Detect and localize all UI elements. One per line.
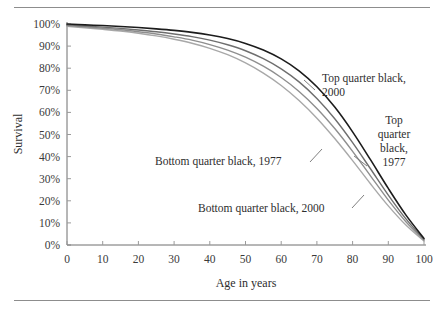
y-axis-title: Survival (11, 113, 25, 154)
x-tick-label: 10 (97, 253, 109, 265)
x-axis-group: 0102030405060708090100 Age in years (64, 241, 433, 290)
y-axis-tick-labels: 0%10%20%30%40%50%60%70%80%90%100% (33, 18, 60, 251)
annotation-line: 2000 (322, 86, 345, 98)
annotation-line: Top quarter black, (322, 72, 406, 85)
y-tick-label: 50% (39, 129, 61, 141)
annotation-label: Bottom quarter black, 2000 (198, 202, 325, 215)
annotation-line: 1977 (383, 156, 406, 168)
y-tick-label: 40% (39, 151, 61, 163)
annotation-label: Topquarterblack,1977 (378, 114, 411, 168)
survival-chart: 0%10%20%30%40%50%60%70%80%90%100% Surviv… (0, 0, 442, 317)
annotation-line: quarter (378, 128, 411, 141)
y-axis-ticks (67, 24, 71, 245)
y-tick-label: 70% (39, 84, 61, 96)
x-tick-label: 90 (383, 253, 395, 265)
x-tick-label: 60 (275, 253, 287, 265)
y-tick-label: 80% (39, 62, 61, 74)
x-axis-ticks (67, 241, 424, 245)
x-tick-label: 50 (240, 253, 252, 265)
annotation-line: Bottom quarter black, 2000 (198, 202, 325, 215)
x-tick-label: 40 (204, 253, 216, 265)
annotation-leader-line (352, 195, 364, 208)
x-tick-label: 30 (168, 253, 180, 265)
y-tick-label: 0% (45, 239, 61, 251)
annotation-leader-line (310, 149, 322, 162)
y-axis-group: 0%10%20%30%40%50%60%70%80%90%100% Surviv… (11, 18, 71, 251)
annotation-label: Bottom quarter black, 1977 (155, 155, 282, 168)
x-tick-label: 20 (133, 253, 145, 265)
x-tick-label: 100 (415, 253, 433, 265)
annotation-line: Top (385, 114, 403, 127)
y-tick-label: 90% (39, 40, 61, 52)
y-tick-label: 30% (39, 173, 61, 185)
annotation-line: Bottom quarter black, 1977 (155, 155, 282, 168)
x-axis-tick-labels: 0102030405060708090100 (64, 253, 433, 265)
annotation-line: black, (380, 142, 408, 155)
annotation-label: Top quarter black,2000 (322, 72, 406, 98)
y-tick-label: 100% (33, 18, 60, 30)
chart-annotations: Top quarter black,2000Topquarterblack,19… (155, 72, 410, 215)
x-tick-label: 0 (64, 253, 70, 265)
y-tick-label: 20% (39, 195, 61, 207)
x-axis-title: Age in years (216, 276, 277, 290)
x-tick-label: 80 (347, 253, 359, 265)
y-tick-label: 60% (39, 106, 61, 118)
figure-container: 0%10%20%30%40%50%60%70%80%90%100% Surviv… (0, 0, 442, 317)
y-tick-label: 10% (39, 217, 61, 229)
x-tick-label: 70 (311, 253, 323, 265)
